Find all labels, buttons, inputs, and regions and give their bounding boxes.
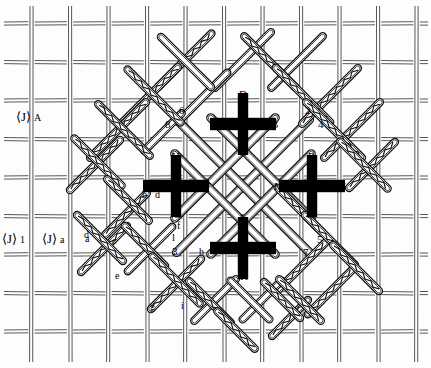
cross-label-M: M bbox=[274, 181, 284, 192]
cross-label-I: I bbox=[213, 243, 217, 254]
number-label-l: l bbox=[172, 232, 175, 243]
number-label-3: 3 bbox=[172, 246, 178, 257]
cross-label-P: P bbox=[308, 151, 314, 162]
cross-label-F: F bbox=[205, 181, 211, 192]
cross-label-B: B bbox=[271, 119, 278, 130]
diagram-canvas: ⟨J⟩A⟨J⟩1⟨J⟩a DABCHEFGPMNOLIJK 68243l57 b… bbox=[0, 0, 431, 368]
cross-label-G: G bbox=[173, 209, 181, 220]
angle-bracket-notation: ⟨J⟩ bbox=[2, 231, 17, 246]
number-label-2: 2 bbox=[305, 105, 311, 116]
item-label-f: f bbox=[177, 221, 180, 231]
item-label-h: h bbox=[199, 247, 204, 257]
diagram-artwork bbox=[0, 0, 431, 368]
cross-label-L: L bbox=[240, 213, 247, 224]
cross-label-C: C bbox=[239, 147, 246, 158]
angle-bracket-notation: ⟨J⟩ bbox=[42, 231, 57, 246]
cross-label-H: H bbox=[172, 151, 180, 162]
cross-label-A: A bbox=[210, 119, 218, 130]
axis-label-A: ⟨J⟩A bbox=[16, 110, 41, 123]
cross-label-O: O bbox=[309, 209, 317, 220]
number-label-4: 4 bbox=[318, 119, 324, 130]
item-label-d: d bbox=[155, 190, 160, 200]
cross-label-D: D bbox=[239, 89, 247, 100]
item-label-d: d bbox=[84, 230, 89, 240]
cross-label-K: K bbox=[240, 271, 248, 282]
item-label-c: c bbox=[112, 236, 116, 246]
item-label-g: g bbox=[150, 302, 155, 312]
axis-label-subscript: a bbox=[60, 234, 64, 245]
number-label-8: 8 bbox=[165, 119, 171, 130]
item-label-e: e bbox=[115, 271, 119, 281]
axis-label-subscript: 1 bbox=[20, 234, 25, 245]
cross-label-J: J bbox=[272, 243, 276, 254]
number-label-7: 7 bbox=[303, 247, 309, 258]
item-label-i: i bbox=[181, 301, 184, 311]
angle-bracket-notation: ⟨J⟩ bbox=[16, 109, 31, 124]
cross-label-N: N bbox=[338, 181, 346, 192]
axis-label-1: ⟨J⟩1 bbox=[2, 232, 25, 245]
number-label-6: 6 bbox=[179, 105, 185, 116]
number-label-5: 5 bbox=[317, 234, 323, 245]
axis-label-subscript: A bbox=[34, 112, 41, 123]
axis-label-a: ⟨J⟩a bbox=[42, 232, 65, 245]
item-label-b: b bbox=[142, 190, 147, 200]
